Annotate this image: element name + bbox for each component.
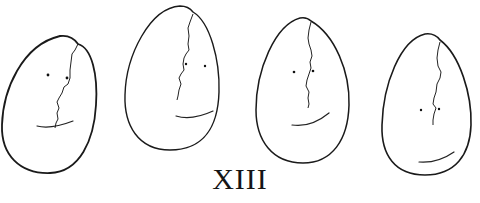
eye-right	[312, 70, 315, 73]
eye-left	[293, 71, 296, 74]
egg-face-3	[256, 18, 349, 163]
eye-right	[438, 108, 440, 110]
eye-left	[185, 63, 187, 65]
mouth	[37, 121, 73, 127]
egg-outline	[2, 36, 96, 173]
eye-left	[420, 109, 422, 111]
egg-outline	[256, 18, 349, 163]
mouth	[419, 152, 454, 162]
egg-face-2	[125, 6, 219, 150]
egg-face-1	[2, 36, 96, 173]
mouth	[292, 113, 329, 125]
egg-outline	[125, 6, 219, 150]
egg-crack	[55, 44, 78, 128]
mouth	[176, 111, 213, 117]
egg-face-4	[382, 34, 471, 175]
egg-outline	[382, 34, 471, 175]
eye-right	[204, 65, 206, 67]
egg-crack	[177, 14, 193, 100]
egg-crack	[306, 22, 312, 108]
eye-left	[47, 74, 50, 77]
eye-right	[66, 77, 69, 80]
egg-crack	[433, 42, 441, 125]
figure-caption: XIII	[190, 164, 290, 194]
